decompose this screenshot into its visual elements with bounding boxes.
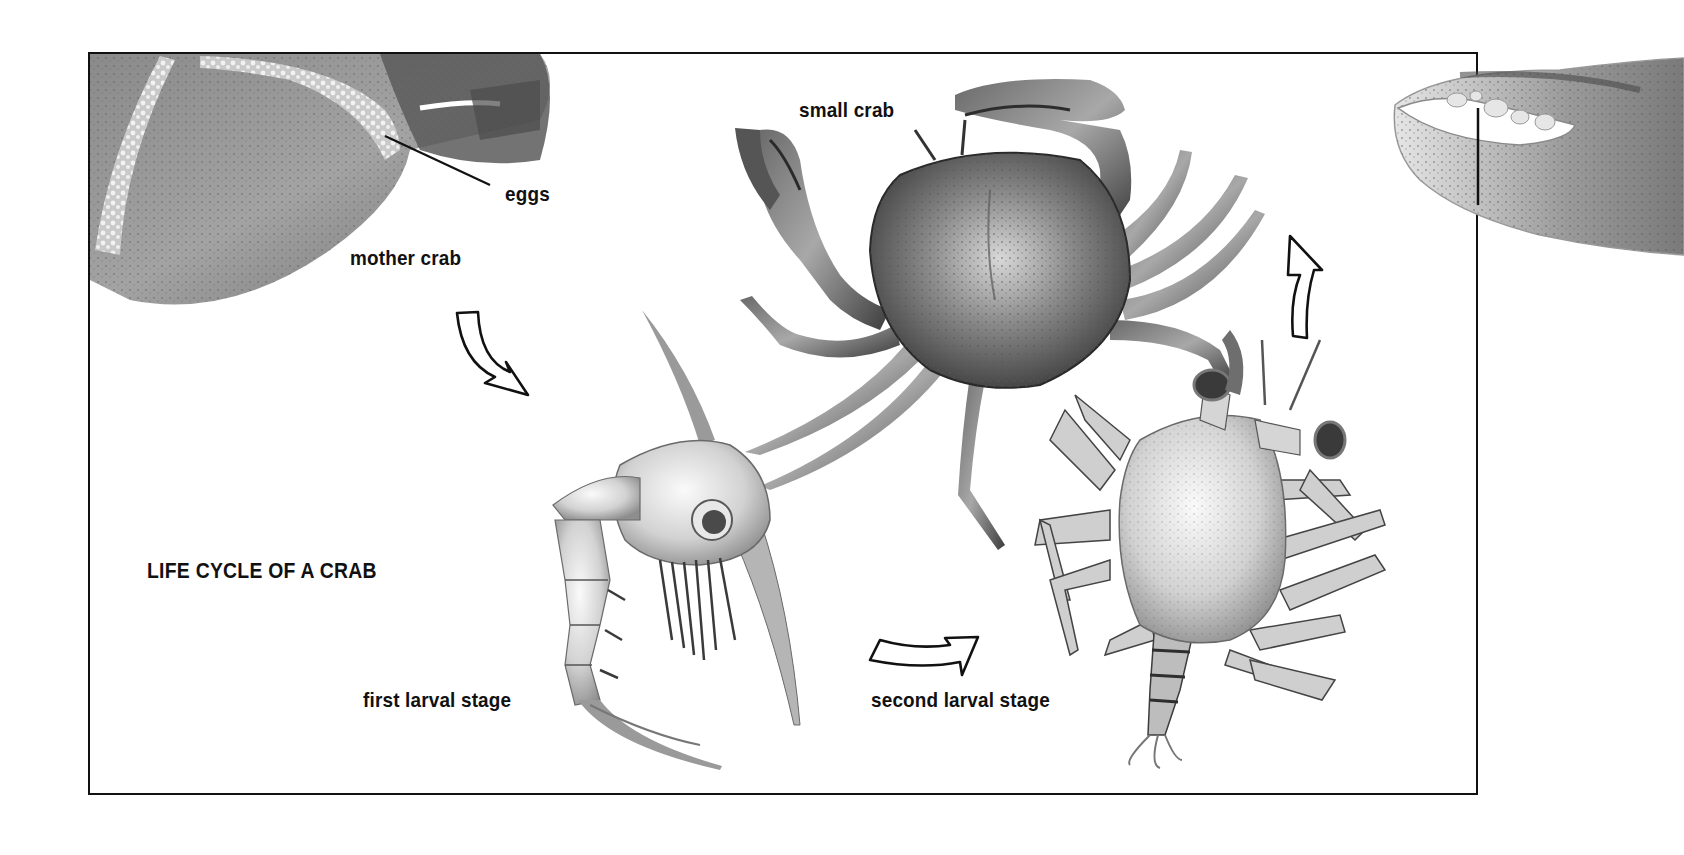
diagram-title: LIFE CYCLE OF A CRAB — [147, 558, 377, 584]
crab-claw-illustration — [1394, 58, 1684, 255]
mother-crab-illustration — [90, 54, 550, 304]
first-larva-illustration — [553, 310, 800, 770]
curved-arrow-right-icon — [870, 637, 978, 675]
first-larval-stage-label: first larval stage — [363, 688, 511, 712]
second-larva-illustration — [1035, 330, 1385, 768]
illustration-layer — [0, 0, 1684, 855]
curved-arrow-up-icon — [1288, 236, 1322, 338]
eggs-label: eggs — [505, 182, 550, 206]
crab-life-cycle-diagram: eggs mother crab small crab LIFE CYCLE O… — [0, 0, 1684, 855]
second-larval-stage-label: second larval stage — [871, 688, 1050, 712]
small-crab-label: small crab — [799, 98, 894, 122]
mother-crab-label: mother crab — [350, 246, 461, 270]
curved-arrow-down-right-icon — [457, 312, 528, 395]
